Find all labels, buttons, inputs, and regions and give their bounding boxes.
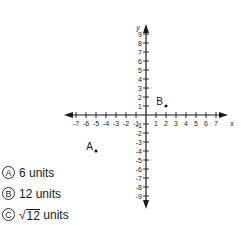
x-tick-label: 3 (174, 120, 178, 127)
y-axis-down-arrow-icon (143, 200, 149, 209)
y-tick-label: 5 (138, 67, 142, 74)
choice-c-letter-icon: C (2, 208, 15, 221)
point-b-label: B (156, 96, 163, 107)
x-tick-label: -2 (123, 120, 129, 127)
y-axis-label: y (135, 24, 140, 32)
y-tick-label: -7 (136, 175, 142, 182)
x-tick-label: -7 (73, 120, 79, 127)
x-axis-right-arrow-icon (219, 112, 228, 118)
tick-labels: -7-6-5-4-3-2-11234567987654321-1-2-3-4-5… (73, 24, 234, 200)
square-root: √ 12 (19, 208, 40, 222)
y-tick-label: 3 (138, 85, 142, 92)
y-tick-label: 6 (138, 58, 142, 65)
choice-b-text: 12 units (19, 187, 61, 201)
x-tick-label: 1 (154, 120, 158, 127)
y-tick-label: -4 (136, 148, 142, 155)
x-tick-label: 2 (164, 120, 168, 127)
choice-b[interactable]: B 12 units (2, 183, 69, 204)
x-tick-label: 6 (204, 120, 208, 127)
y-tick-label: 2 (138, 94, 142, 101)
radicand: 12 (26, 209, 40, 222)
x-tick-label: -3 (113, 120, 119, 127)
x-tick-label: -6 (83, 120, 89, 127)
choice-c-suffix: units (40, 208, 69, 222)
x-tick-label: -4 (103, 120, 109, 127)
choice-a[interactable]: A 6 units (2, 162, 69, 183)
y-tick-label: -1 (136, 122, 142, 129)
x-axis-left-arrow-icon (64, 112, 73, 118)
choice-a-letter-icon: A (2, 166, 15, 179)
y-tick-label: -5 (136, 157, 142, 164)
x-tick-label: -5 (93, 120, 99, 127)
y-tick-label: -3 (136, 139, 142, 146)
point-a-label: A (86, 141, 93, 152)
choice-a-text: 6 units (19, 166, 54, 180)
y-tick-label: 4 (138, 76, 142, 83)
y-tick-label: 7 (138, 49, 142, 56)
y-tick-label: -9 (136, 193, 142, 200)
y-tick-label: 1 (138, 103, 142, 110)
radical-sign-icon: √ (19, 208, 26, 222)
x-axis-label: x (229, 120, 234, 127)
choice-c-text: √ 12 units (19, 208, 69, 222)
point-a (94, 149, 97, 152)
y-axis-up-arrow-icon (143, 24, 149, 33)
y-tick-label: -2 (136, 130, 142, 137)
x-tick-label: 4 (184, 120, 188, 127)
answer-choices: A 6 units B 12 units C √ 12 units (2, 162, 69, 225)
y-tick-label: -6 (136, 166, 142, 173)
y-tick-label: 8 (138, 40, 142, 47)
point-b (164, 104, 167, 107)
y-tick-label: 9 (138, 31, 142, 38)
choice-b-letter-icon: B (2, 187, 15, 200)
x-tick-label: 7 (214, 120, 218, 127)
x-tick-label: 5 (194, 120, 198, 127)
y-tick-label: -8 (136, 184, 142, 191)
choice-c[interactable]: C √ 12 units (2, 204, 69, 225)
